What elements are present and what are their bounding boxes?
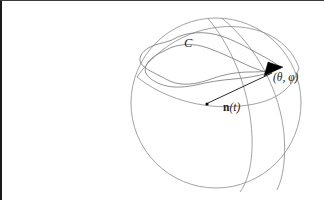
normal-vector-label: n(t)	[223, 101, 240, 114]
closed-curve-c-outer	[140, 33, 281, 85]
normal-vector-line	[208, 73, 272, 103]
normal-vector-label-arg: (t)	[229, 101, 240, 114]
sphere-center-dot	[205, 102, 208, 105]
sphere-diagram-canvas: C n(t) (θ, φ)	[0, 0, 324, 200]
point-angles-label: (θ, φ)	[273, 71, 299, 84]
sphere-outline	[131, 18, 301, 188]
figure-container: C n(t) (θ, φ)	[0, 0, 324, 200]
curve-label-c: C	[184, 36, 193, 50]
